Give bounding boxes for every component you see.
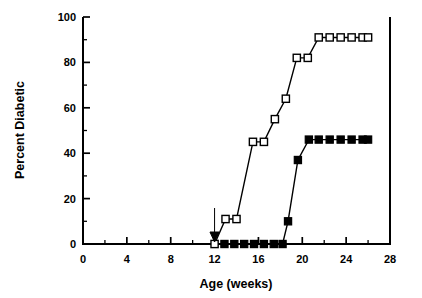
data-point-marker [326, 34, 333, 41]
data-point-marker [222, 215, 229, 222]
x-tick-label: 28 [384, 253, 396, 265]
chart-figure: 0481216202428 020406080100 Age (weeks) P… [0, 0, 422, 298]
data-point-marker [231, 240, 238, 247]
y-tick-label: 100 [58, 11, 76, 23]
y-tick-label: 20 [64, 193, 76, 205]
data-point-marker [260, 240, 267, 247]
data-point-marker [279, 240, 286, 247]
data-point-marker [221, 240, 228, 247]
data-point-marker [270, 240, 277, 247]
plot-frame [83, 17, 390, 244]
x-tick-label: 12 [208, 253, 220, 265]
data-point-marker [315, 136, 322, 143]
series-filled-squares [221, 136, 372, 248]
data-point-marker [348, 34, 355, 41]
data-point-marker [293, 54, 300, 61]
data-point-marker [315, 34, 322, 41]
x-tick-label: 16 [252, 253, 264, 265]
chart-axes [83, 17, 390, 244]
data-point-marker [284, 218, 291, 225]
x-tick-label: 8 [168, 253, 174, 265]
series-path [215, 37, 369, 244]
data-point-marker [250, 240, 257, 247]
data-point-marker [304, 54, 311, 61]
x-axis-tick-labels: 0481216202428 [80, 253, 396, 265]
data-point-marker [337, 34, 344, 41]
percent-diabetic-line-chart: 0481216202428 020406080100 Age (weeks) P… [0, 0, 422, 298]
y-tick-label: 40 [64, 147, 76, 159]
axis-ticks [83, 17, 390, 244]
y-tick-label: 80 [64, 56, 76, 68]
data-point-marker [364, 136, 371, 143]
y-tick-label: 60 [64, 102, 76, 114]
data-point-marker [260, 138, 267, 145]
data-series [211, 34, 372, 248]
data-point-marker [337, 136, 344, 143]
data-point-marker [364, 34, 371, 41]
y-axis-title: Percent Diabetic [13, 81, 27, 179]
data-point-marker [233, 215, 240, 222]
data-point-marker [326, 136, 333, 143]
x-tick-label: 0 [80, 253, 86, 265]
x-tick-label: 4 [124, 253, 131, 265]
series-path [224, 140, 368, 244]
data-point-marker [249, 138, 256, 145]
y-tick-label: 0 [70, 238, 76, 250]
data-point-marker [271, 116, 278, 123]
x-axis-title: Age (weeks) [200, 277, 273, 291]
x-tick-label: 20 [296, 253, 308, 265]
data-point-marker [348, 136, 355, 143]
data-point-marker [294, 156, 301, 163]
data-point-marker [282, 95, 289, 102]
x-tick-label: 24 [340, 253, 353, 265]
data-point-marker [241, 240, 248, 247]
data-point-marker [305, 136, 312, 143]
y-axis-tick-labels: 020406080100 [58, 11, 76, 250]
